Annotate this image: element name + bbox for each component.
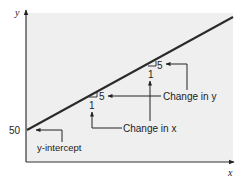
y-intercept-label: y-intercept	[37, 142, 82, 153]
lower-rise-label: 5	[99, 91, 105, 102]
y-axis-label: y	[14, 7, 20, 18]
diagram-canvas: y x 50 y-intercept 5 1 5 1 Change in x C…	[0, 0, 240, 178]
x-axis-label: x	[227, 167, 233, 178]
slope-intercept-diagram: y x 50 y-intercept 5 1 5 1 Change in x C…	[0, 0, 240, 178]
lower-run-label: 1	[89, 100, 95, 111]
y-intercept-value: 50	[9, 125, 21, 136]
change-in-x-label: Change in x	[123, 123, 176, 134]
change-in-y-label: Change in y	[163, 91, 216, 102]
plot-area	[26, 13, 233, 162]
upper-run-label: 1	[148, 69, 154, 80]
upper-rise-label: 5	[157, 60, 163, 71]
